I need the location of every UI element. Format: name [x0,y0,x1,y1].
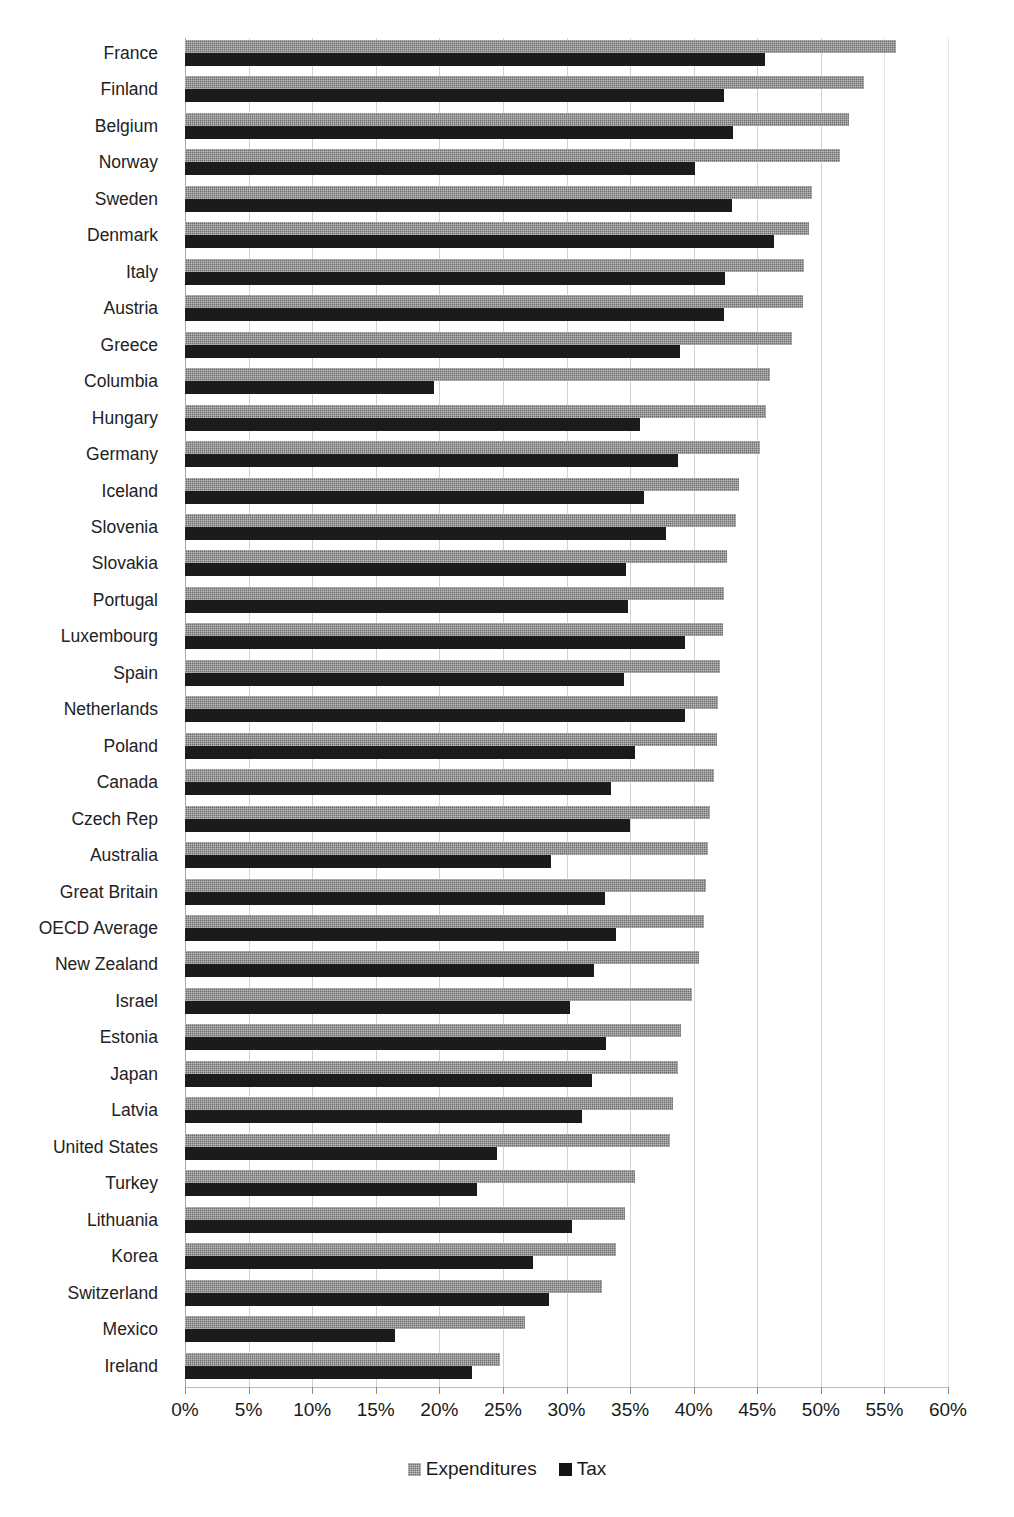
legend-item-tax[interactable]: Tax [559,1458,607,1480]
x-tick-mark [567,1387,568,1394]
bar-expenditures-czech-rep[interactable] [185,806,710,819]
bar-tax-hungary[interactable] [185,418,640,431]
bar-expenditures-poland[interactable] [185,733,717,746]
bar-row [185,220,948,256]
bar-tax-norway[interactable] [185,162,695,175]
y-axis-label-slovenia: Slovenia [0,518,172,536]
bar-expenditures-portugal[interactable] [185,587,724,600]
x-tick-label-50%: 50% [802,1399,840,1421]
bar-tax-estonia[interactable] [185,1037,606,1050]
x-tick-mark [503,1387,504,1394]
bar-expenditures-norway[interactable] [185,149,840,162]
y-axis-category-labels: FranceFinlandBelgiumNorwaySwedenDenmarkI… [0,38,172,1387]
bar-expenditures-latvia[interactable] [185,1097,673,1110]
bar-tax-latvia[interactable] [185,1110,582,1123]
bar-expenditures-estonia[interactable] [185,1024,681,1037]
bar-tax-netherlands[interactable] [185,709,685,722]
bar-tax-canada[interactable] [185,782,611,795]
bar-expenditures-australia[interactable] [185,842,708,855]
bar-tax-united-states[interactable] [185,1147,497,1160]
y-axis-label-turkey: Turkey [0,1174,172,1192]
bar-expenditures-slovenia[interactable] [185,514,736,527]
bar-expenditures-great-britain[interactable] [185,879,706,892]
bar-expenditures-new-zealand[interactable] [185,951,699,964]
x-tick-label-10%: 10% [293,1399,331,1421]
bar-tax-slovakia[interactable] [185,563,626,576]
bar-tax-italy[interactable] [185,272,725,285]
bar-expenditures-germany[interactable] [185,441,760,454]
y-axis-label-iceland: Iceland [0,482,172,500]
bar-expenditures-korea[interactable] [185,1243,616,1256]
bar-expenditures-finland[interactable] [185,76,864,89]
bar-expenditures-oecd-average[interactable] [185,915,704,928]
bar-tax-slovenia[interactable] [185,527,666,540]
bar-expenditures-slovakia[interactable] [185,550,727,563]
bar-tax-switzerland[interactable] [185,1293,549,1306]
bar-expenditures-hungary[interactable] [185,405,766,418]
bar-tax-iceland[interactable] [185,491,644,504]
bar-expenditures-france[interactable] [185,40,896,53]
bar-row [185,1351,948,1387]
bar-tax-denmark[interactable] [185,235,774,248]
y-axis-label-hungary: Hungary [0,409,172,427]
x-axis: 0%5%10%15%20%25%30%35%40%45%50%55%60% [185,1387,948,1427]
bar-tax-turkey[interactable] [185,1183,477,1196]
bar-expenditures-switzerland[interactable] [185,1280,602,1293]
bar-expenditures-luxembourg[interactable] [185,623,723,636]
bar-tax-japan[interactable] [185,1074,592,1087]
bar-expenditures-netherlands[interactable] [185,696,718,709]
bar-expenditures-denmark[interactable] [185,222,809,235]
bar-expenditures-iceland[interactable] [185,478,739,491]
bar-tax-luxembourg[interactable] [185,636,685,649]
legend-item-expenditures[interactable]: Expenditures [408,1458,537,1480]
bar-row [185,840,948,876]
x-tick-label-0%: 0% [171,1399,198,1421]
bar-expenditures-japan[interactable] [185,1061,678,1074]
bar-row [185,293,948,329]
bar-row [185,949,948,985]
bar-tax-austria[interactable] [185,308,724,321]
bar-tax-greece[interactable] [185,345,680,358]
bar-tax-israel[interactable] [185,1001,570,1014]
bar-expenditures-italy[interactable] [185,259,804,272]
bar-tax-new-zealand[interactable] [185,964,594,977]
bar-tax-czech-rep[interactable] [185,819,630,832]
y-axis-label-oecd-average: OECD Average [0,919,172,937]
bar-expenditures-canada[interactable] [185,769,714,782]
bar-tax-belgium[interactable] [185,126,733,139]
bar-tax-mexico[interactable] [185,1329,395,1342]
bar-tax-columbia[interactable] [185,381,434,394]
bar-expenditures-columbia[interactable] [185,368,770,381]
bar-expenditures-israel[interactable] [185,988,692,1001]
bar-expenditures-greece[interactable] [185,332,792,345]
y-axis-label-israel: Israel [0,992,172,1010]
bar-expenditures-ireland[interactable] [185,1353,500,1366]
bar-expenditures-austria[interactable] [185,295,803,308]
bar-tax-poland[interactable] [185,746,635,759]
bar-tax-lithuania[interactable] [185,1220,572,1233]
bar-tax-oecd-average[interactable] [185,928,616,941]
expenditures-swatch-icon [408,1463,421,1476]
bar-tax-france[interactable] [185,53,765,66]
bar-tax-spain[interactable] [185,673,624,686]
bar-tax-korea[interactable] [185,1256,533,1269]
bar-expenditures-lithuania[interactable] [185,1207,625,1220]
bar-tax-portugal[interactable] [185,600,628,613]
bar-tax-great-britain[interactable] [185,892,605,905]
x-tick-label-55%: 55% [865,1399,903,1421]
bar-tax-sweden[interactable] [185,199,732,212]
bar-row [185,1278,948,1314]
bar-expenditures-spain[interactable] [185,660,720,673]
bar-tax-germany[interactable] [185,454,678,467]
bar-row [185,38,948,74]
bar-expenditures-mexico[interactable] [185,1316,525,1329]
bar-expenditures-belgium[interactable] [185,113,849,126]
bar-tax-finland[interactable] [185,89,724,102]
bar-tax-ireland[interactable] [185,1366,472,1379]
bar-expenditures-sweden[interactable] [185,186,812,199]
bar-expenditures-turkey[interactable] [185,1170,635,1183]
bar-expenditures-united-states[interactable] [185,1134,670,1147]
bar-tax-australia[interactable] [185,855,551,868]
x-tick-mark [439,1387,440,1394]
bar-row [185,1314,948,1350]
